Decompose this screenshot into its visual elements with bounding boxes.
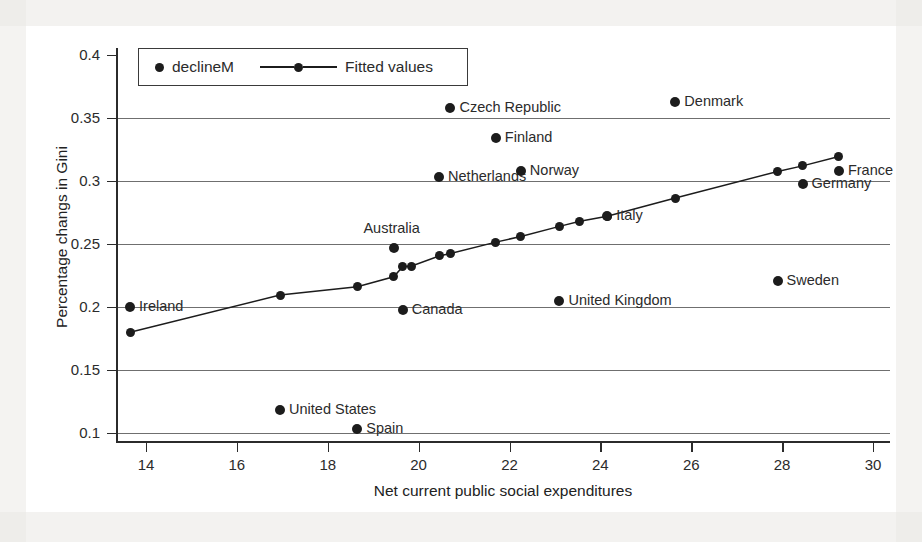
fitted-value-point [773,167,782,176]
fitted-value-point [834,152,843,161]
data-point-label: Finland [505,129,553,145]
data-point [516,166,526,176]
data-point-label: Denmark [684,93,743,109]
fitted-value-point [491,238,500,247]
data-point [398,305,408,315]
data-point-label: France [848,162,893,178]
data-point [554,296,564,306]
data-point [773,276,783,286]
x-axis-tick [328,442,329,452]
fitted-value-point [276,291,285,300]
fitted-value-point [575,217,584,226]
data-point-label: Australia [363,220,419,236]
gridline [117,433,890,434]
fitted-value-point [398,262,407,271]
data-point-label: United Kingdom [568,292,671,308]
y-axis-tick [107,307,117,308]
data-point-label: Norway [530,162,579,178]
fitted-value-point [671,194,680,203]
legend-item-fitted-values: Fitted values [260,49,433,85]
data-point [352,424,362,434]
y-axis-title: Percentage changs in Gini [53,57,71,417]
fitted-value-point [389,272,398,281]
fitted-value-point [555,222,564,231]
data-point [798,179,808,189]
data-point-label: Italy [616,207,643,223]
legend-dot-icon [155,63,164,72]
y-axis-tick [107,181,117,182]
data-point-label: Sweden [787,272,839,288]
fitted-value-point [126,328,135,337]
data-point [275,405,285,415]
gridline [117,370,890,371]
y-axis-tick-label: 0.1 [30,424,100,441]
data-point [125,302,135,312]
data-point-label: Ireland [139,298,183,314]
fitted-value-point [435,251,444,260]
x-axis-line [116,441,890,443]
x-axis-tick-label: 28 [752,456,812,473]
fitted-value-point [353,282,362,291]
data-point [445,103,455,113]
x-axis-tick [237,442,238,452]
data-point [491,133,501,143]
x-axis-tick [600,442,601,452]
x-axis-tick-label: 20 [389,456,449,473]
scatter-chart: 0.40.350.30.250.20.150.1 141618202224262… [0,0,922,542]
y-axis-tick [107,55,117,56]
data-point-label: Canada [412,301,463,317]
fitted-value-point [516,232,525,241]
data-point [389,243,399,253]
fitted-value-point [798,161,807,170]
y-axis-tick [107,244,117,245]
x-axis-title: Net current public social expenditures [116,482,890,500]
data-point-label: Netherlands [448,168,526,184]
legend-line-icon-left [260,66,294,67]
data-point-label: United States [289,401,376,417]
x-axis-tick-label: 18 [298,456,358,473]
gridline [117,244,890,245]
fitted-value-point [407,262,416,271]
x-axis-tick-label: 30 [843,456,903,473]
y-axis-tick [107,433,117,434]
x-axis-tick-label: 14 [116,456,176,473]
legend-label-fitted-values: Fitted values [345,58,433,76]
x-axis-tick-label: 22 [480,456,540,473]
x-axis-tick [782,442,783,452]
chart-legend: declineM Fitted values [138,48,468,86]
legend-line-icon-right [303,66,337,67]
data-point [602,211,612,221]
gridline [117,118,890,119]
data-point-label: Czech Republic [459,99,561,115]
x-axis-tick-label: 26 [661,456,721,473]
x-axis-tick [146,442,147,452]
fitted-value-point [446,249,455,258]
x-axis-tick [873,442,874,452]
y-axis-tick [107,370,117,371]
x-axis-tick [419,442,420,452]
legend-dot-icon [294,63,303,72]
data-point [834,166,844,176]
data-point [670,97,680,107]
x-axis-tick [510,442,511,452]
legend-item-declinem: declineM [155,49,234,85]
x-axis-tick-label: 16 [207,456,267,473]
x-axis-tick [691,442,692,452]
x-axis-tick-label: 24 [570,456,630,473]
data-point-label: Spain [366,420,403,436]
gridline [117,307,890,308]
y-axis-tick [107,118,117,119]
legend-label-declinem: declineM [172,58,234,76]
